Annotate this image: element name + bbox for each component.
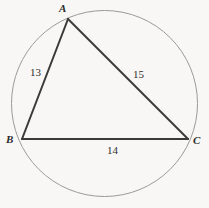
vertex-label-a: A	[59, 3, 66, 14]
vertex-label-c: C	[193, 135, 200, 146]
geometry-figure: A B C 13 15 14	[0, 0, 209, 208]
circumcircle	[12, 11, 198, 197]
geometry-canvas	[0, 0, 209, 208]
side-length-label-bc: 14	[107, 145, 118, 156]
vertex-label-b: B	[6, 134, 13, 145]
side-length-label-ab: 13	[30, 67, 41, 78]
side-length-label-ac: 15	[133, 69, 144, 80]
triangle-side-ab	[22, 19, 68, 139]
